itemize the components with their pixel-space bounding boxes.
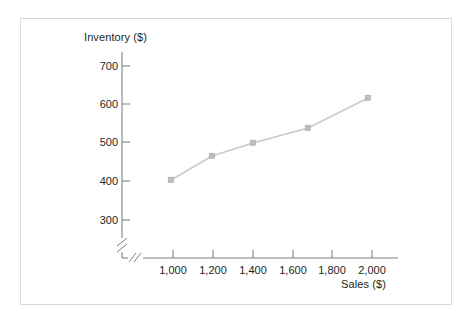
y-tick-label-400: 400	[84, 175, 118, 187]
x-tick-label-2000: 2,000	[352, 264, 392, 276]
y-tick-label-300: 300	[84, 214, 118, 226]
y-axis-title: Inventory ($)	[84, 31, 147, 43]
x-axis-title: Sales ($)	[341, 278, 386, 290]
data-series-line	[171, 98, 368, 180]
y-axis-break-icon	[117, 238, 127, 252]
x-axis-ticks	[173, 250, 372, 258]
chart-figure: Inventory ($) Sales ($) 700 600 500 400 …	[0, 0, 474, 323]
y-tick-label-600: 600	[84, 98, 118, 110]
x-tick-label-1200: 1,200	[193, 264, 233, 276]
data-point-marker	[209, 153, 214, 158]
x-tick-label-1800: 1,800	[312, 264, 352, 276]
y-tick-label-700: 700	[84, 60, 118, 72]
y-tick-label-500: 500	[84, 136, 118, 148]
x-tick-label-1000: 1,000	[153, 264, 193, 276]
x-axis-break-icon	[129, 253, 141, 262]
data-point-marker	[305, 125, 310, 130]
y-axis-ticks	[122, 66, 130, 220]
data-point-marker	[168, 177, 173, 182]
x-tick-label-1400: 1,400	[233, 264, 273, 276]
x-tick-label-1600: 1,600	[273, 264, 313, 276]
data-point-marker	[365, 95, 370, 100]
data-point-marker	[250, 140, 255, 145]
